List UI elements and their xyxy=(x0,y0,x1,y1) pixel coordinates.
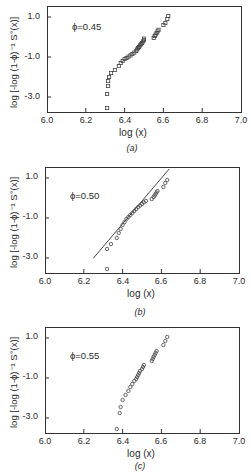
x-tick-label: 7.0 xyxy=(227,436,251,446)
data-point xyxy=(162,185,165,188)
data-point xyxy=(115,427,118,430)
x-tick-label: 6.0 xyxy=(33,276,57,286)
data-point xyxy=(106,92,109,95)
panel-caption: (a) xyxy=(117,143,147,153)
x-tick-label: 6.6 xyxy=(149,276,173,286)
data-point xyxy=(117,231,120,234)
data-point xyxy=(124,393,127,396)
x-tick-label: 6.2 xyxy=(72,276,96,286)
data-point xyxy=(127,389,130,392)
data-point xyxy=(166,178,169,181)
x-tick-label: 6.0 xyxy=(35,115,59,125)
data-point xyxy=(107,79,110,82)
x-tick-label: 6.4 xyxy=(111,436,135,446)
data-point xyxy=(106,106,109,109)
x-tick-label: 7.0 xyxy=(227,276,251,286)
data-point xyxy=(109,71,112,74)
panel-b: log [-log (1-ϕ)⁻¹ S°(x)] 1.0 -1.0 -3.0 ϕ… xyxy=(0,160,251,320)
x-tick-label: 7.0 xyxy=(229,115,251,125)
panel-caption: (b) xyxy=(125,307,155,317)
data-point xyxy=(164,339,167,342)
x-tick-label: 6.8 xyxy=(188,276,212,286)
x-tick-label: 6.8 xyxy=(190,115,214,125)
x-tick-label: 6.4 xyxy=(111,276,135,286)
data-point xyxy=(121,398,124,401)
x-tick-label: 6.6 xyxy=(151,115,175,125)
x-tick-label: 6.8 xyxy=(188,436,212,446)
data-point xyxy=(107,75,110,78)
data-point xyxy=(105,267,108,270)
data-point xyxy=(118,411,121,414)
data-point xyxy=(150,197,153,200)
data-point xyxy=(119,227,122,230)
data-point xyxy=(133,379,136,382)
data-point xyxy=(115,236,118,239)
data-point xyxy=(107,84,110,87)
panel-caption: (c) xyxy=(125,461,155,471)
panel-a: log [-log (1-ϕ)⁻¹ S°(x)] 1.0 -1.0 -3.0 ϕ… xyxy=(0,0,251,160)
data-point xyxy=(119,405,122,408)
data-point xyxy=(105,247,108,250)
x-axis-label: log (x) xyxy=(111,448,171,459)
panel-c: log [-log (1-ϕ)⁻¹ S°(x)] 1.0 -1.0 -3.0 ϕ… xyxy=(0,320,251,476)
data-point xyxy=(109,242,112,245)
x-tick-label: 6.6 xyxy=(149,436,173,446)
x-tick-label: 6.2 xyxy=(74,115,98,125)
x-tick-label: 6.2 xyxy=(72,436,96,446)
data-point xyxy=(113,68,116,71)
data-point xyxy=(162,343,165,346)
x-tick-label: 6.0 xyxy=(33,436,57,446)
x-axis-label: log (x) xyxy=(103,127,163,138)
x-tick-label: 6.4 xyxy=(113,115,137,125)
data-point xyxy=(166,335,169,338)
x-axis-label: log (x) xyxy=(111,288,171,299)
